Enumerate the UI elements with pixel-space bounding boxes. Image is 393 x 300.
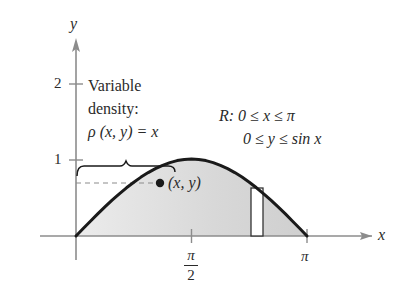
density-function: ρ (x, y) = x <box>88 124 158 140</box>
y-tick-label-2: 2 <box>54 76 62 91</box>
representative-rectangle <box>251 188 263 236</box>
density-annotation-line2: density: <box>88 101 139 117</box>
fraction-bar <box>184 265 198 266</box>
y-tick-label-1: 1 <box>54 152 62 167</box>
y-axis-label: y <box>70 16 77 32</box>
point-label: (x, y) <box>168 175 201 191</box>
fraction-numerator: π <box>181 248 201 263</box>
density-annotation-line1: Variable <box>88 78 141 94</box>
x-tick-label-pi-half: π 2 <box>181 248 201 283</box>
region-annotation-line1: R: 0 ≤ x ≤ π <box>219 108 295 124</box>
region-r <box>76 159 307 236</box>
region-annotation-line2: 0 ≤ y ≤ sin x <box>243 131 321 147</box>
x-tick-label-pi: π <box>301 249 309 264</box>
point-marker <box>156 179 164 187</box>
fraction-denominator: 2 <box>181 268 201 283</box>
density-region-diagram: y x 1 2 π 2 π Variable density: ρ (x, y)… <box>0 0 393 300</box>
x-axis-label: x <box>378 227 385 243</box>
